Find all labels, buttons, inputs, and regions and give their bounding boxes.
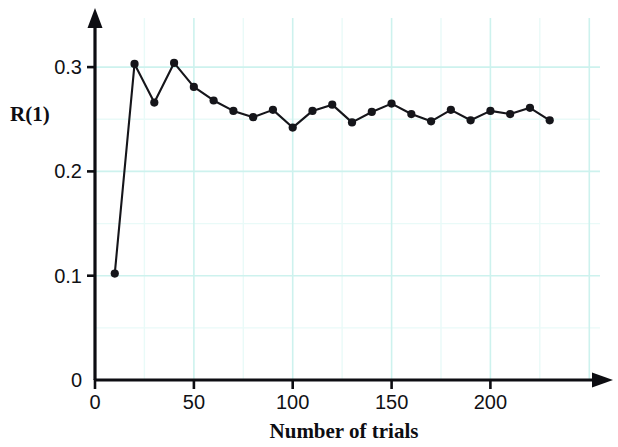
data-point-marker (486, 107, 494, 115)
data-point-marker (170, 59, 178, 67)
data-point-marker (387, 100, 395, 108)
data-point-marker (269, 106, 277, 114)
y-tick-label: 0 (71, 369, 82, 391)
data-point-marker (210, 96, 218, 104)
series-polyline (115, 63, 550, 274)
y-tick-labels: 00.10.20.3 (54, 56, 82, 391)
x-tick-labels: 050100150200 (89, 391, 507, 413)
x-tick-label: 0 (89, 391, 100, 413)
data-point-marker (467, 116, 475, 124)
data-point-marker (427, 117, 435, 125)
x-axis-arrow-icon (592, 373, 613, 388)
data-point-marker (407, 110, 415, 118)
major-gridlines (95, 18, 600, 380)
data-point-marker (130, 60, 138, 68)
data-point-marker (506, 110, 514, 118)
y-axis-title: R(1) (10, 102, 50, 127)
data-point-marker (368, 108, 376, 116)
x-tick-label: 200 (474, 391, 507, 413)
data-point-marker (348, 118, 356, 126)
data-point-marker (150, 98, 158, 106)
chart-figure: 00.10.20.3 050100150200 R(1) Number of t… (0, 0, 618, 447)
y-axis-arrow-icon (88, 8, 103, 28)
data-point-marker (111, 270, 119, 278)
data-point-marker (190, 83, 198, 91)
y-tick-label: 0.1 (54, 265, 82, 287)
data-point-marker (328, 101, 336, 109)
x-tick-label: 100 (276, 391, 309, 413)
data-series-line (115, 63, 550, 274)
data-point-marker (546, 116, 554, 124)
data-point-marker (289, 123, 297, 131)
chart-canvas: 00.10.20.3 050100150200 (0, 0, 618, 447)
data-point-marker (447, 106, 455, 114)
data-point-markers (111, 59, 554, 278)
data-point-marker (229, 107, 237, 115)
x-axis-title: Number of trials (0, 419, 618, 444)
minor-gridlines (95, 18, 600, 380)
y-tick-label: 0.3 (54, 56, 82, 78)
data-point-marker (526, 104, 534, 112)
data-point-marker (308, 107, 316, 115)
plot-axes (88, 8, 614, 388)
x-tick-label: 50 (183, 391, 205, 413)
data-point-marker (249, 113, 257, 121)
y-tick-label: 0.2 (54, 160, 82, 182)
x-tick-label: 150 (375, 391, 408, 413)
